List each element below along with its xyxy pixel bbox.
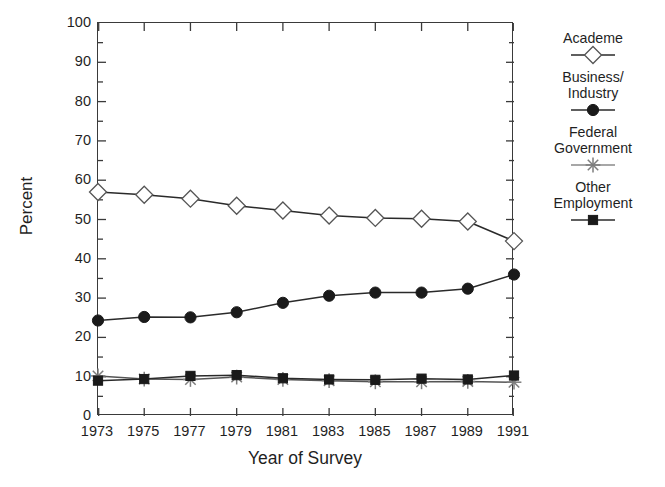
y-axis-tick-label: 40 bbox=[51, 251, 91, 266]
y-axis-tick-label: 20 bbox=[51, 329, 91, 344]
plot-series-layer bbox=[98, 23, 514, 416]
x-axis-title: Year of Survey bbox=[97, 448, 513, 469]
legend-item: Other Employment bbox=[528, 179, 658, 229]
series-academe bbox=[90, 183, 523, 249]
y-axis-title: Percent bbox=[17, 146, 37, 266]
axis-ticks bbox=[98, 23, 514, 416]
series-business-industry bbox=[92, 269, 519, 326]
y-axis-tick-label: 0 bbox=[51, 408, 91, 423]
y-axis-tick-label: 10 bbox=[51, 369, 91, 384]
x-axis-tick-label: 1991 bbox=[483, 424, 543, 439]
y-axis-tick-label: 50 bbox=[51, 212, 91, 227]
y-axis-tick-labels: 0102030405060708090100 bbox=[47, 0, 91, 487]
plot-area bbox=[97, 22, 513, 415]
legend-item-label: Other Employment bbox=[528, 179, 658, 212]
y-axis-tick-label: 80 bbox=[51, 94, 91, 109]
y-axis-tick-label: 90 bbox=[51, 54, 91, 69]
chart-canvas: 0102030405060708090100 Percent 197319751… bbox=[0, 0, 665, 487]
series-other-employment bbox=[93, 371, 518, 386]
legend-marker-asterisk-icon bbox=[528, 157, 658, 174]
y-axis-tick-label: 70 bbox=[51, 133, 91, 148]
legend-item-label: Business/ Industry bbox=[528, 69, 658, 102]
legend-item: Academe bbox=[528, 30, 658, 64]
y-axis-tick-label: 60 bbox=[51, 172, 91, 187]
chart-legend: AcademeBusiness/ IndustryFederal Governm… bbox=[528, 30, 658, 234]
y-axis-tick-label: 30 bbox=[51, 290, 91, 305]
x-axis-tick-labels: 1973197519771979198119831985198719891991 bbox=[97, 424, 513, 446]
legend-marker-open-diamond-icon bbox=[528, 47, 658, 64]
legend-item-label: Federal Government bbox=[528, 124, 658, 157]
legend-marker-filled-circle-icon bbox=[528, 102, 658, 119]
legend-item: Federal Government bbox=[528, 124, 658, 174]
legend-item: Business/ Industry bbox=[528, 69, 658, 119]
y-axis-tick-label: 100 bbox=[51, 15, 91, 30]
legend-item-label: Academe bbox=[528, 30, 658, 47]
legend-marker-filled-square-icon bbox=[528, 212, 658, 229]
